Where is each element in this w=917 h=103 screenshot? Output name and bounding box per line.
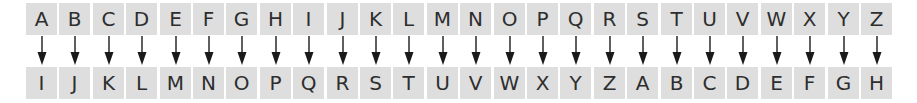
down-arrow-icon <box>170 36 182 66</box>
cipher-letter-cell: I <box>26 67 57 99</box>
down-arrow-icon <box>69 36 81 66</box>
plain-letter-cell: D <box>126 3 157 35</box>
down-arrow-icon <box>604 36 616 66</box>
cipher-letter-cell: E <box>761 67 792 99</box>
plain-letter-cell: Y <box>828 3 859 35</box>
cipher-letter-cell: L <box>126 67 157 99</box>
cipher-letter-cell: K <box>93 67 124 99</box>
down-arrow-icon <box>838 36 850 66</box>
cipher-letter-cell: X <box>527 67 558 99</box>
down-arrow-icon <box>537 36 549 66</box>
down-arrow-icon <box>203 36 215 66</box>
down-arrow-icon <box>36 36 48 66</box>
down-arrow-icon <box>671 36 683 66</box>
plain-letter-cell: C <box>93 3 124 35</box>
cipher-letter-cell: Z <box>594 67 625 99</box>
down-arrow-icon <box>370 36 382 66</box>
cipher-letter-cell: Y <box>560 67 591 99</box>
plain-letter-cell: E <box>160 3 191 35</box>
cipher-letter-cell: G <box>828 67 859 99</box>
cipher-letter-cell: P <box>260 67 291 99</box>
cipher-letter-cell: A <box>627 67 658 99</box>
cipher-letter-cell: R <box>327 67 358 99</box>
plain-letter-cell: U <box>694 3 725 35</box>
down-arrow-icon <box>303 36 315 66</box>
plain-letter-cell: R <box>594 3 625 35</box>
down-arrow-icon <box>504 36 516 66</box>
plain-letter-cell: P <box>527 3 558 35</box>
plain-letter-cell: O <box>494 3 525 35</box>
plain-letter-cell: A <box>26 3 57 35</box>
down-arrow-icon <box>570 36 582 66</box>
down-arrow-icon <box>470 36 482 66</box>
cipher-letter-cell: D <box>727 67 758 99</box>
plain-letter-cell: V <box>727 3 758 35</box>
down-arrow-icon <box>771 36 783 66</box>
down-arrow-icon <box>136 36 148 66</box>
down-arrow-icon <box>270 36 282 66</box>
plain-letter-cell: S <box>627 3 658 35</box>
down-arrow-icon <box>403 36 415 66</box>
down-arrow-icon <box>337 36 349 66</box>
cipher-letter-cell: J <box>59 67 90 99</box>
cipher-letter-cell: T <box>393 67 424 99</box>
plain-letter-cell: F <box>193 3 224 35</box>
plain-letter-cell: K <box>360 3 391 35</box>
cipher-letter-cell: M <box>160 67 191 99</box>
down-arrow-icon <box>871 36 883 66</box>
caesar-cipher-diagram: AIBJCKDLEMFNGOHPIQJRKSLTMUNVOWPXQYRZSATB… <box>0 0 917 103</box>
plain-letter-cell: Q <box>560 3 591 35</box>
cipher-letter-cell: S <box>360 67 391 99</box>
down-arrow-icon <box>637 36 649 66</box>
cipher-letter-cell: N <box>193 67 224 99</box>
cipher-letter-cell: U <box>427 67 458 99</box>
plain-letter-cell: G <box>226 3 257 35</box>
down-arrow-icon <box>437 36 449 66</box>
cipher-letter-cell: V <box>460 67 491 99</box>
plain-letter-cell: J <box>327 3 358 35</box>
cipher-letter-cell: W <box>494 67 525 99</box>
plain-letter-cell: B <box>59 3 90 35</box>
cipher-letter-cell: C <box>694 67 725 99</box>
cipher-letter-cell: F <box>794 67 825 99</box>
plain-letter-cell: I <box>293 3 324 35</box>
down-arrow-icon <box>704 36 716 66</box>
cipher-letter-cell: B <box>661 67 692 99</box>
cipher-letter-cell: O <box>226 67 257 99</box>
down-arrow-icon <box>804 36 816 66</box>
down-arrow-icon <box>236 36 248 66</box>
plain-letter-cell: W <box>761 3 792 35</box>
plain-letter-cell: Z <box>861 3 892 35</box>
plain-letter-cell: T <box>661 3 692 35</box>
plain-letter-cell: H <box>260 3 291 35</box>
plain-letter-cell: N <box>460 3 491 35</box>
cipher-letter-cell: Q <box>293 67 324 99</box>
down-arrow-icon <box>103 36 115 66</box>
down-arrow-icon <box>737 36 749 66</box>
cipher-letter-cell: H <box>861 67 892 99</box>
plain-letter-cell: X <box>794 3 825 35</box>
plain-letter-cell: M <box>427 3 458 35</box>
plain-letter-cell: L <box>393 3 424 35</box>
